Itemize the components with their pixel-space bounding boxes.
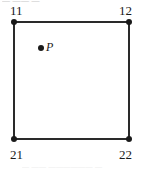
square-edge-top: [13, 21, 130, 23]
interior-point-p-label: P: [46, 41, 53, 53]
corner-label-21: 21: [10, 148, 23, 161]
figure-canvas: — —— — 11 12 P 21 22 — —— —————— —: [0, 0, 144, 171]
corner-label-11: 11: [10, 4, 23, 17]
corner-label-12: 12: [119, 4, 132, 17]
corner-vertex-12-dot: [126, 19, 132, 25]
interior-point-p-dot: [38, 45, 44, 51]
cropped-text-remnant-bottom: — —— —————— —: [22, 163, 132, 170]
square-edge-right: [128, 21, 130, 140]
square-edge-bottom: [13, 138, 130, 140]
corner-vertex-11-dot: [11, 19, 17, 25]
corner-label-22: 22: [119, 148, 132, 161]
square-edge-left: [13, 21, 15, 140]
corner-vertex-22-dot: [126, 136, 132, 142]
cropped-text-remnant-top: — —— —: [2, 0, 46, 3]
corner-vertex-21-dot: [11, 136, 17, 142]
